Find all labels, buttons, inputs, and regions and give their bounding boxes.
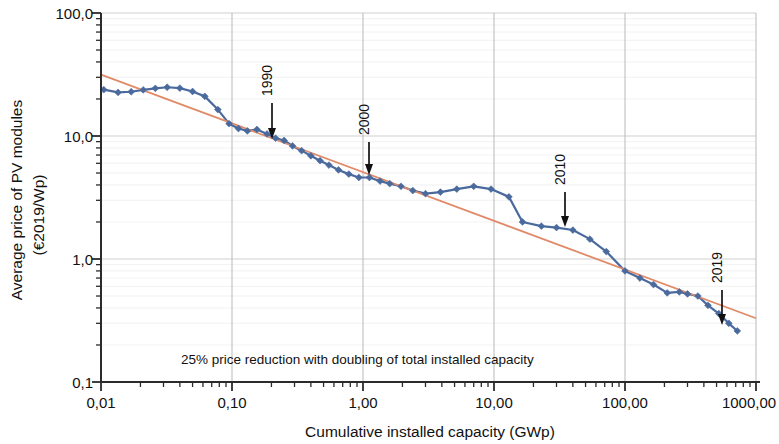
x-tick-label-10-00: 10,00	[475, 394, 513, 411]
annotation-2019-label: 2019	[709, 252, 725, 283]
x-tick-label-0-10: 0,10	[217, 394, 246, 411]
y-axis-title-line2: (€2019/Wp)	[30, 175, 47, 256]
y-tick-label-100: 100,0	[55, 5, 93, 22]
y-axis-title-line1: Average price of PV modules	[8, 100, 25, 301]
inline-note-annotation: 25% price reduction with doubling of tot…	[181, 352, 534, 367]
x-tick-label-1-00: 1,00	[348, 394, 377, 411]
x-tick-label-0-01: 0,01	[86, 394, 115, 411]
x-axis-title: Cumulative installed capacity (GWp)	[305, 423, 555, 440]
x-tick-label-1000-00: 1000,00	[722, 394, 776, 411]
pv-price-learning-curve-chart: 100,0 10,0 1,0 0,1 0,01 0,10 1,00 10,00 …	[0, 0, 779, 444]
chart-figure: 100,0 10,0 1,0 0,1 0,01 0,10 1,00 10,00 …	[0, 0, 779, 444]
y-tick-label-10: 10,0	[64, 128, 93, 145]
annotation-2010-label: 2010	[552, 154, 568, 185]
x-tick-label-100-00: 100,00	[602, 394, 648, 411]
y-tick-label-0-1: 0,1	[72, 374, 93, 391]
y-tick-label-1: 1,0	[72, 251, 93, 268]
annotation-1990-label: 1990	[259, 65, 275, 96]
annotation-2000-label: 2000	[356, 104, 372, 135]
